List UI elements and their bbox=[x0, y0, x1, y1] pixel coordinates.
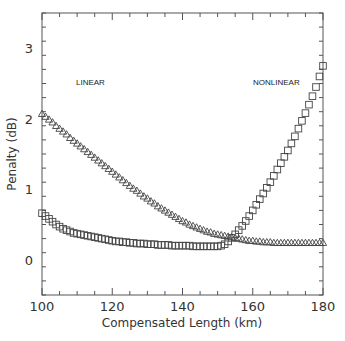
square-marker bbox=[295, 125, 302, 132]
series-triangles bbox=[38, 110, 326, 245]
penalty-chart: 1001201401601800123 LINEAR NONLINEAR Com… bbox=[0, 0, 345, 341]
y-axis-title: Penalty (dB) bbox=[5, 117, 19, 190]
square-marker bbox=[271, 173, 278, 180]
square-marker bbox=[281, 154, 288, 161]
y-tick-label: 2 bbox=[25, 112, 33, 127]
y-tick-label: 3 bbox=[25, 41, 33, 56]
square-marker bbox=[278, 160, 285, 167]
annotation-nonlinear: NONLINEAR bbox=[253, 78, 300, 87]
square-marker bbox=[285, 147, 292, 154]
y-tick-label: 0 bbox=[25, 253, 33, 268]
x-tick-label: 100 bbox=[30, 299, 55, 314]
x-tick-label: 180 bbox=[311, 299, 336, 314]
x-tick-label: 140 bbox=[170, 299, 195, 314]
x-tick-label: 120 bbox=[100, 299, 125, 314]
square-marker bbox=[316, 73, 323, 80]
annotation-linear: LINEAR bbox=[76, 78, 105, 87]
square-marker bbox=[313, 84, 320, 91]
square-marker bbox=[306, 101, 313, 108]
square-marker bbox=[274, 166, 281, 173]
square-marker bbox=[299, 118, 306, 125]
square-marker bbox=[309, 93, 316, 100]
x-axis-title: Compensated Length (km) bbox=[102, 316, 262, 330]
square-marker bbox=[288, 140, 295, 147]
y-tick-label: 1 bbox=[25, 182, 33, 197]
x-tick-label: 160 bbox=[240, 299, 265, 314]
square-marker bbox=[292, 133, 299, 140]
square-marker bbox=[302, 110, 309, 117]
